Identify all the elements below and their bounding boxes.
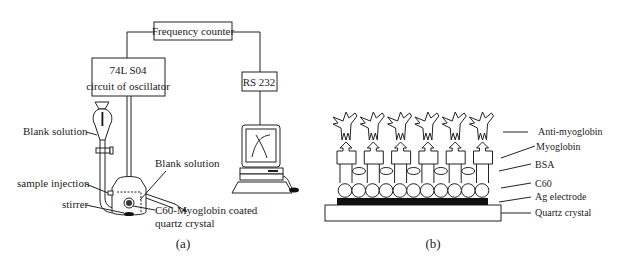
figure: Frequency counter 74L S04 circuit of osc… — [0, 0, 617, 269]
ag-electrode-layer — [337, 198, 488, 205]
myoglobin-layer — [337, 142, 493, 164]
caption-b: (b) — [425, 236, 440, 251]
bsa-molecule — [462, 168, 475, 175]
leader-myoglobin — [501, 146, 535, 158]
myoglobin-molecule — [337, 142, 356, 164]
wire-counter-oscillator — [127, 32, 154, 58]
wire-oscillator-cell — [127, 96, 131, 180]
c60-molecule — [338, 184, 352, 198]
label-quartz-crystal: Quartz crystal — [535, 207, 592, 218]
myoglobin-molecule — [364, 142, 383, 164]
myoglobin-molecule — [392, 142, 411, 164]
panel-b: Anti-myoglobin Myoglobin BSA C60 Ag elec… — [325, 112, 602, 251]
c60-molecule — [366, 184, 380, 198]
c60-molecule — [475, 184, 489, 198]
c60-molecule — [352, 184, 366, 198]
myoglobin-molecule — [419, 142, 438, 164]
anti-myoglobin-antibody — [470, 112, 494, 140]
anti-myoglobin-antibody — [333, 112, 357, 140]
bsa-molecule — [380, 168, 393, 175]
blank-solution-left-label: Blank solution — [23, 125, 88, 137]
anti-myoglobin-layer — [333, 112, 494, 140]
leader-ag-electrode — [499, 197, 531, 202]
linker-stem — [449, 164, 461, 183]
myoglobin-molecule — [446, 142, 465, 164]
anti-myoglobin-antibody — [360, 112, 384, 140]
linker-stem — [422, 164, 434, 183]
leader-c60 — [501, 183, 531, 188]
bsa-layer — [353, 168, 475, 175]
c60-molecule — [379, 184, 393, 198]
c60-molecule — [434, 184, 448, 198]
linker-stem — [367, 164, 379, 183]
stirrer-label: stirrer — [62, 198, 89, 210]
c60-molecule — [448, 184, 462, 198]
bsa-molecule — [407, 168, 420, 175]
c60-molecule — [420, 184, 434, 198]
linker-stem — [340, 164, 352, 183]
computer-icon — [232, 125, 299, 193]
bsa-molecule — [434, 168, 447, 175]
blank-solution-right-label: Blank solution — [155, 157, 220, 169]
bsa-molecule — [353, 168, 366, 175]
quartz-crystal-layer — [325, 205, 501, 221]
linker-stem — [395, 164, 407, 183]
c60-layer — [338, 184, 489, 198]
label-anti-myoglobin: Anti-myoglobin — [538, 126, 602, 137]
label-myoglobin: Myoglobin — [536, 141, 580, 152]
anti-myoglobin-antibody — [442, 112, 466, 140]
c60-molecule — [462, 184, 476, 198]
anti-myoglobin-antibody — [388, 112, 412, 140]
panel-a: Frequency counter 74L S04 circuit of osc… — [17, 22, 299, 251]
frequency-counter-label: Frequency counter — [152, 25, 234, 37]
label-ag-electrode: Ag electrode — [535, 191, 587, 202]
c60-molecule — [407, 184, 421, 198]
rs232-label: RS 232 — [243, 76, 276, 88]
label-bsa: BSA — [535, 159, 555, 170]
crystal-label-2: quartz crystal — [155, 217, 215, 229]
anti-myoglobin-antibody — [415, 112, 439, 140]
c60-molecule — [393, 184, 407, 198]
crystal-label-1: C60-Myoglobin coated — [155, 204, 258, 216]
myoglobin-molecule — [474, 142, 493, 164]
wire-counter-rs232 — [232, 32, 260, 72]
caption-a: (a) — [176, 236, 190, 251]
oscillator-label-1: 74L S04 — [109, 64, 147, 76]
oscillator-label-2: circuit of oscillator — [86, 80, 170, 92]
linker-stem — [477, 164, 489, 183]
leader-bsa — [499, 164, 531, 171]
sample-injection-label: sample injection — [17, 177, 90, 189]
label-c60: C60 — [535, 178, 552, 189]
